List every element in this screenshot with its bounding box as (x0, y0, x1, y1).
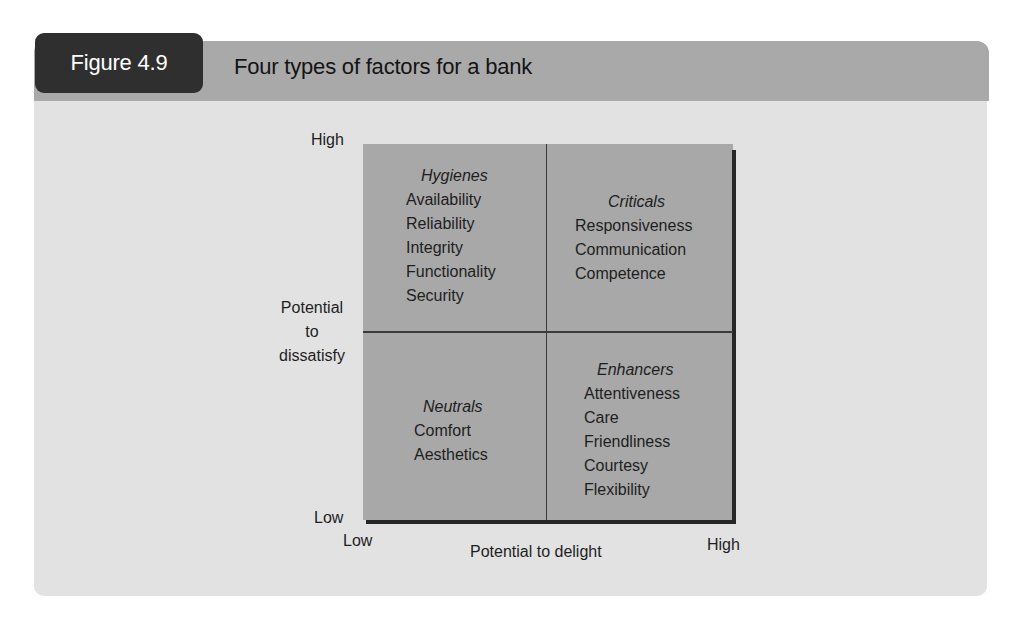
figure-number-badge: Figure 4.9 (35, 33, 203, 93)
quadrant-item: Functionality (406, 260, 496, 284)
y-axis-title-line: Potential (262, 296, 362, 320)
quadrant-item: Security (406, 284, 496, 308)
x-axis-high-label: High (707, 535, 740, 555)
figure-title: Four types of factors for a bank (234, 52, 532, 82)
quadrant-item: Reliability (406, 212, 496, 236)
quadrant-enhancers: Enhancers Attentiveness Care Friendlines… (584, 358, 680, 502)
quadrant-heading: Enhancers (584, 358, 680, 382)
x-axis-line (366, 520, 736, 524)
quadrant-item: Communication (575, 238, 692, 262)
quadrant-heading: Hygienes (406, 164, 496, 188)
quadrant-item: Comfort (414, 419, 488, 443)
quadrant-item: Attentiveness (584, 382, 680, 406)
quadrant-item: Aesthetics (414, 443, 488, 467)
y-axis-title-line: dissatisfy (262, 344, 362, 368)
grid-right-border (732, 150, 736, 524)
quadrant-item: Friendliness (584, 430, 680, 454)
quadrant-item: Responsiveness (575, 214, 692, 238)
quadrant-item: Competence (575, 262, 692, 286)
quadrant-hygienes: Hygienes Availability Reliability Integr… (406, 164, 496, 308)
quadrant-neutrals: Neutrals Comfort Aesthetics (414, 395, 488, 467)
y-axis-low-label: Low (314, 508, 343, 528)
y-axis-title: Potential to dissatisfy (262, 296, 362, 368)
quadrant-item: Courtesy (584, 454, 680, 478)
x-axis-title: Potential to delight (470, 542, 602, 562)
quadrant-item: Flexibility (584, 478, 680, 502)
y-axis-title-line: to (262, 320, 362, 344)
quadrant-criticals: Criticals Responsiveness Communication C… (575, 190, 692, 286)
quadrant-item: Integrity (406, 236, 496, 260)
quadrant-heading: Criticals (575, 190, 692, 214)
x-axis-low-label: Low (343, 531, 372, 551)
quadrant-item: Availability (406, 188, 496, 212)
y-axis-high-label: High (311, 130, 344, 150)
quadrant-heading: Neutrals (414, 395, 488, 419)
quadrant-item: Care (584, 406, 680, 430)
horizontal-divider (363, 331, 733, 333)
